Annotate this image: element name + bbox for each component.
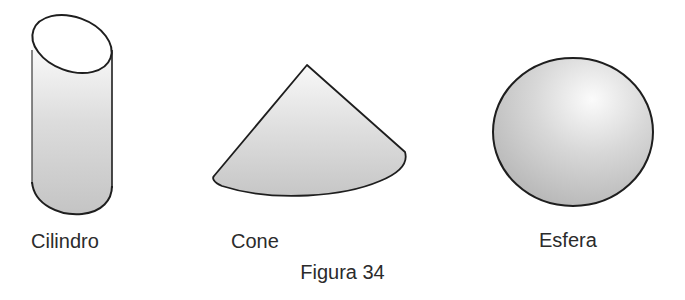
cylinder-label: Cilindro: [31, 230, 99, 252]
cone-label: Cone: [231, 230, 279, 252]
cylinder-shape: [24, 5, 120, 215]
sphere-label: Esfera: [539, 229, 597, 251]
sphere-body: [493, 58, 653, 206]
cone-body: [213, 65, 406, 196]
figure-caption: Figura 34: [0, 261, 685, 283]
sphere-shape: [493, 58, 653, 206]
geometric-solids-figure: [0, 0, 685, 300]
cone-shape: [213, 65, 406, 196]
